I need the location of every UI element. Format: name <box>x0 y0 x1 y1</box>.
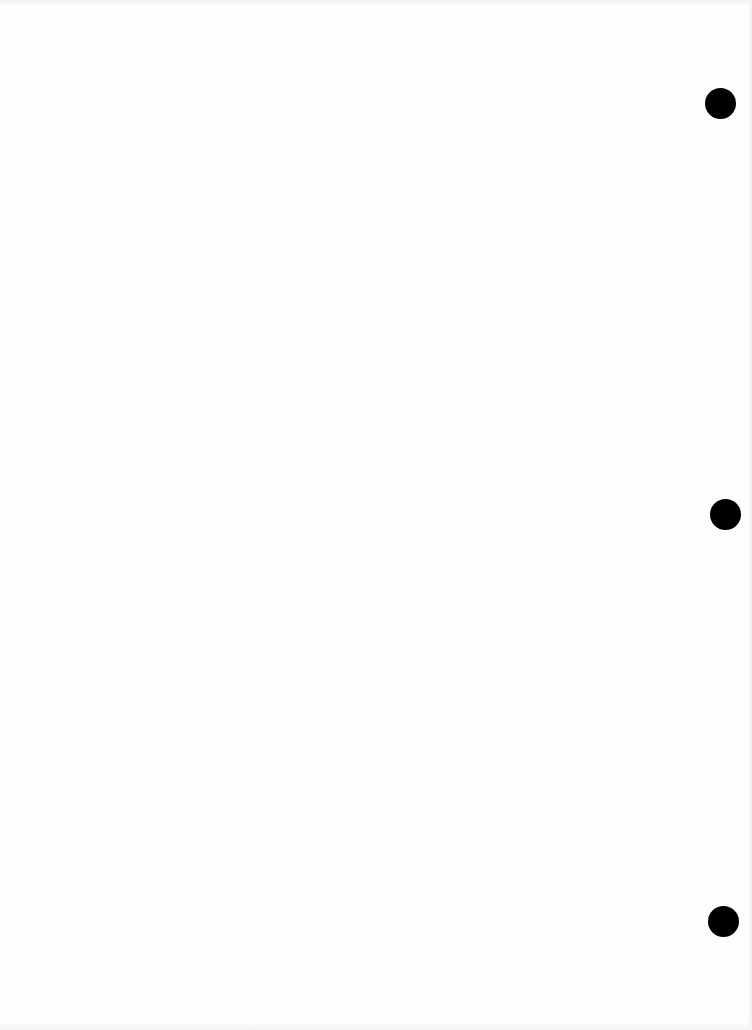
punch-hole-bottom <box>708 906 739 937</box>
page-edge-top <box>0 0 752 6</box>
blank-page <box>0 0 752 1030</box>
punch-hole-middle <box>710 499 741 530</box>
page-edge-bottom <box>0 1022 752 1030</box>
page-edge-right <box>748 0 752 1030</box>
punch-hole-top <box>705 88 736 119</box>
